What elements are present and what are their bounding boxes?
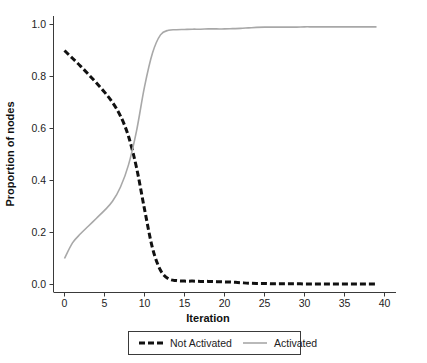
- y-tick-label: 0.2: [31, 226, 46, 238]
- y-axis-title: Proportion of nodes: [4, 101, 16, 206]
- x-axis-title: Iteration: [186, 312, 230, 324]
- legend-label-activated: Activated: [274, 337, 317, 349]
- x-tick-label: 0: [62, 297, 68, 309]
- x-tick-label: 30: [299, 297, 311, 309]
- x-tick-label: 15: [179, 297, 191, 309]
- x-tick-label: 35: [339, 297, 351, 309]
- chart-figure: 1.0 0.8 0.6 0.4 0.2 0.0 0 5 10 15 20 25 …: [0, 0, 427, 363]
- x-tick-label: 20: [219, 297, 231, 309]
- y-tick-label: 0.8: [31, 70, 46, 82]
- legend: Not Activated Activated: [129, 332, 318, 355]
- y-tick-label: 1.0: [31, 18, 46, 30]
- y-tick-label: 0.4: [31, 174, 46, 186]
- x-tick-label: 40: [379, 297, 391, 309]
- x-tick-label: 5: [102, 297, 108, 309]
- legend-label-not-activated: Not Activated: [170, 337, 232, 349]
- x-tick-label: 25: [259, 297, 271, 309]
- x-tick-label: 10: [139, 297, 151, 309]
- y-tick-label: 0.0: [31, 278, 46, 290]
- y-tick-label: 0.6: [31, 122, 46, 134]
